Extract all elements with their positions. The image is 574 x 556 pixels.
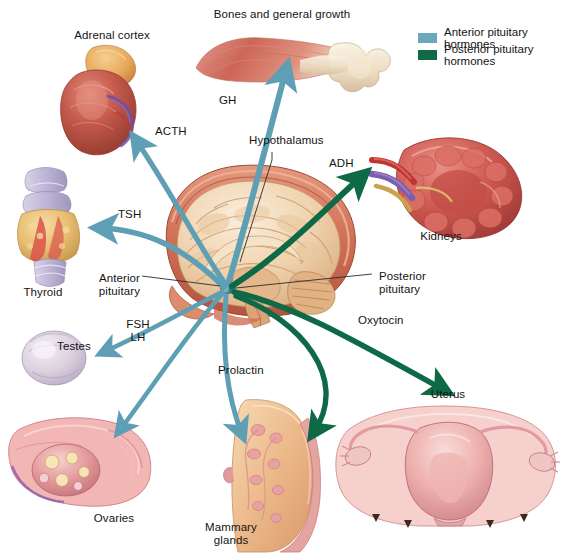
label-ovaries: Ovaries xyxy=(83,512,145,525)
label-testes: Testes xyxy=(48,340,100,353)
legend-item-posterior: Posterior pituitary hormones xyxy=(418,48,574,62)
arrow-oxytocin-uterus xyxy=(234,292,444,390)
label-prolactin: Prolactin xyxy=(218,364,264,377)
label-fsh-lh: FSH LH xyxy=(122,318,154,344)
label-uterus: Uterus xyxy=(420,388,476,401)
diagram-canvas: Bones and general growth Adrenal cortex … xyxy=(0,0,574,556)
label-posterior-pituitary: Posterior pituitary xyxy=(379,270,463,296)
leader-anterior-pituitary xyxy=(142,276,220,286)
label-acth: ACTH xyxy=(155,125,187,138)
label-hypothalamus: Hypothalamus xyxy=(249,134,324,147)
label-adh: ADH xyxy=(329,157,354,170)
label-gh: GH xyxy=(219,94,236,107)
label-thyroid: Thyroid xyxy=(14,286,72,299)
legend-swatch-posterior xyxy=(418,50,437,60)
label-adrenal-cortex: Adrenal cortex xyxy=(62,29,162,42)
label-bones: Bones and general growth xyxy=(212,8,352,21)
leader-hypothalamus xyxy=(240,152,272,262)
legend-swatch-anterior xyxy=(418,33,437,43)
leader-posterior-pituitary xyxy=(236,274,372,288)
arrow-fsh-lh-ovaries xyxy=(120,294,222,430)
label-oxytocin: Oxytocin xyxy=(358,314,404,327)
legend-label-posterior: Posterior pituitary hormones xyxy=(444,43,574,67)
label-mammary-glands: Mammary glands xyxy=(195,521,267,547)
label-kidneys: Kidneys xyxy=(411,230,471,243)
arrow-acth xyxy=(136,140,226,285)
legend: Anterior pituitary hormones Posterior pi… xyxy=(418,31,574,65)
label-tsh: TSH xyxy=(118,208,141,221)
